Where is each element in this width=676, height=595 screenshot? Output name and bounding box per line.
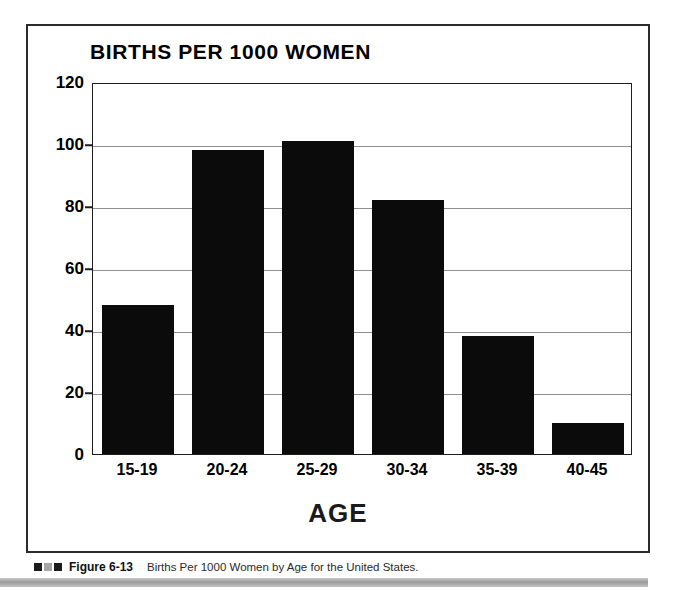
bar xyxy=(552,423,624,454)
bar xyxy=(102,305,174,454)
y-axis-tick-label: 80 xyxy=(34,197,84,217)
y-axis-tick-mark xyxy=(85,330,92,332)
gridline xyxy=(93,270,631,271)
caption-figure-number: Figure 6-13 xyxy=(69,560,133,574)
gridline xyxy=(93,208,631,209)
figure-frame: BIRTHS PER 1000 WOMEN 020406080100120 15… xyxy=(26,24,650,553)
x-axis-title: AGE xyxy=(28,498,648,529)
caption-square-icon xyxy=(44,563,52,571)
y-axis-tick-label: 100 xyxy=(34,135,84,155)
figure-caption: Figure 6-13 Births Per 1000 Women by Age… xyxy=(34,560,419,574)
caption-marker-squares xyxy=(34,563,62,571)
caption-description: Births Per 1000 Women by Age for the Uni… xyxy=(147,561,418,573)
bar xyxy=(462,336,534,454)
caption-square-icon xyxy=(54,563,62,571)
gridline xyxy=(93,146,631,147)
chart-title: BIRTHS PER 1000 WOMEN xyxy=(90,40,371,64)
x-axis-tick-label: 40-45 xyxy=(567,461,608,479)
x-axis-tick-label: 20-24 xyxy=(207,461,248,479)
y-axis-tick-label: 0 xyxy=(34,445,84,465)
bar xyxy=(192,150,264,454)
plot-area xyxy=(92,83,632,455)
bottom-rule-divider xyxy=(0,578,648,587)
x-axis-tick-label: 25-29 xyxy=(297,461,338,479)
bar xyxy=(282,141,354,454)
y-axis-tick-label: 60 xyxy=(34,259,84,279)
y-axis-tick-label: 40 xyxy=(34,321,84,341)
y-axis-tick-mark xyxy=(85,392,92,394)
bar xyxy=(372,200,444,454)
y-axis-tick-mark xyxy=(85,206,92,208)
caption-square-icon xyxy=(34,563,42,571)
y-axis-tick-mark xyxy=(85,144,92,146)
x-axis-tick-label: 30-34 xyxy=(387,461,428,479)
x-axis-tick-label: 15-19 xyxy=(117,461,158,479)
y-axis-tick-label: 20 xyxy=(34,383,84,403)
y-axis-tick-label: 120 xyxy=(34,73,84,93)
x-axis-tick-label: 35-39 xyxy=(477,461,518,479)
y-axis-tick-mark xyxy=(85,268,92,270)
